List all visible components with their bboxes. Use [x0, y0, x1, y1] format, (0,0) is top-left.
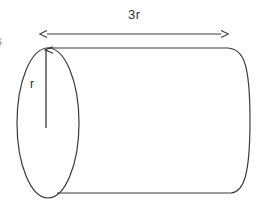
cylinder-front-ellipse: [17, 48, 79, 198]
clipped-left-edge-label: s: [0, 34, 2, 48]
cylinder-body: [47, 48, 250, 193]
radius-label: r: [30, 77, 34, 91]
cylinder-drawing: [0, 0, 267, 203]
cylinder-diagram: 3r r s: [0, 0, 267, 203]
length-label: 3r: [128, 7, 141, 22]
cylinder-right-cap: [228, 48, 250, 193]
